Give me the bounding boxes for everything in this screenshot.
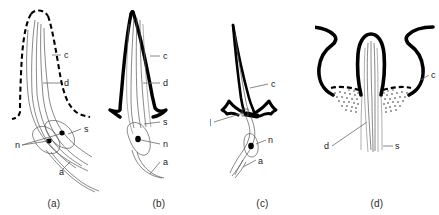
- panel-c-drawing: c d n a: [210, 0, 315, 195]
- label-d: d: [163, 78, 168, 88]
- label-s: s: [163, 117, 168, 127]
- cuticle-outline-right: [133, 12, 166, 117]
- sheath-wall-left: [361, 96, 362, 150]
- nucleus-dot: [135, 136, 141, 142]
- label-a: a: [258, 156, 263, 166]
- panel-b-drawing: c d s n a: [108, 0, 210, 195]
- sheath-wall-right: [381, 96, 382, 150]
- socket-bracket-right: [255, 101, 276, 116]
- label-d: d: [64, 78, 69, 88]
- dendrite-strand-3: [374, 43, 375, 151]
- socket-bracket-left: [222, 101, 243, 115]
- panel-d-caption: (d): [315, 198, 439, 209]
- label-c: c: [271, 79, 276, 89]
- label-c: c: [431, 70, 436, 80]
- cuticle-apex-dashed: [31, 10, 48, 16]
- dendrite-strand-2: [36, 22, 82, 166]
- label-n: n: [268, 135, 273, 145]
- leader-line-d: [332, 122, 367, 146]
- label-c: c: [163, 51, 168, 61]
- dendrite-strand-1: [131, 18, 134, 128]
- figure-container: c d s n a (a): [0, 0, 439, 215]
- label-c: c: [64, 50, 69, 60]
- pit-wall-left: [315, 27, 336, 95]
- pit-floor-dashed-left: [331, 87, 359, 90]
- pit-floor-dashed-right: [383, 87, 411, 90]
- cuticle-outline-dashed-right: [48, 16, 90, 117]
- label-a: a: [163, 157, 168, 167]
- nucleus-dot-2: [59, 131, 64, 136]
- label-d: d: [210, 118, 211, 128]
- stipple-region-right: [383, 89, 410, 112]
- dendrite-strand-2: [371, 41, 373, 152]
- nucleus-dot: [248, 143, 254, 149]
- leader-line-c: [250, 84, 268, 88]
- label-n: n: [15, 140, 20, 150]
- panel-a-drawing: c d s n a: [0, 0, 108, 195]
- label-d: d: [324, 141, 329, 151]
- panel-d: c d s (d): [315, 0, 439, 215]
- cuticle-outline-dashed-left: [12, 14, 31, 119]
- leader-line-a: [150, 162, 160, 174]
- leader-line-s: [144, 122, 160, 124]
- leader-line-s: [68, 129, 81, 134]
- panel-d-drawing: c d s: [315, 0, 439, 195]
- axon-strand-1: [232, 160, 243, 176]
- cuticle-outline-left: [110, 14, 131, 117]
- sheath-strand-outer: [27, 30, 88, 171]
- panel-b: c d s n a (b): [108, 0, 210, 215]
- label-s: s: [395, 141, 400, 151]
- panel-a-caption: (a): [0, 198, 108, 209]
- panel-b-caption: (b): [108, 198, 210, 209]
- label-n: n: [163, 139, 168, 149]
- panel-a: c d s n a (a): [0, 0, 108, 215]
- sheath-strand-inner: [44, 28, 92, 157]
- label-s: s: [84, 124, 89, 134]
- pit-wall-right: [406, 27, 433, 95]
- sheath-strand-right: [377, 48, 378, 152]
- panel-c-caption: (c): [210, 198, 315, 209]
- panel-c: c d n a (c): [210, 0, 315, 215]
- dendrite-strand-1: [367, 43, 371, 150]
- label-a: a: [59, 167, 64, 177]
- stipple-region-left: [332, 89, 359, 112]
